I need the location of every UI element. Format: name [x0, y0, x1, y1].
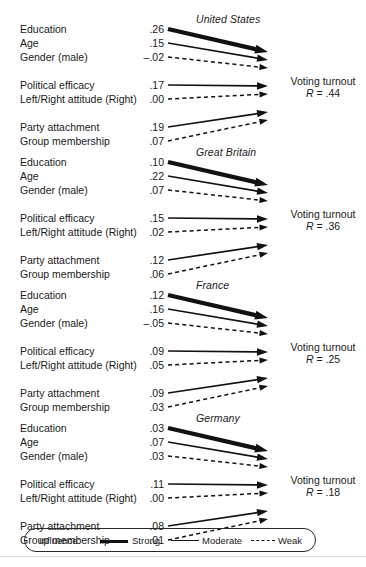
predictor-label: Gender (male): [20, 52, 88, 63]
predictor-label: Gender (male): [20, 451, 88, 462]
legend-swatch-weak: [251, 540, 275, 541]
legend: Influence: Strong Moderate Weak: [24, 528, 316, 552]
legend-label-moderate: Moderate: [202, 535, 242, 546]
influence-arrow: [168, 456, 268, 469]
outcome-r-value: R = .44: [280, 88, 366, 100]
r-number: .36: [325, 220, 340, 232]
country-title: United States: [196, 13, 260, 25]
influence-arrow: [168, 428, 268, 452]
outcome-node: Voting turnoutR = .44: [280, 76, 366, 99]
coefficient-value: .05: [118, 360, 164, 371]
outcome-r-value: R = .18: [280, 487, 366, 499]
r-equals: =: [314, 486, 326, 498]
influence-arrow: [168, 162, 268, 186]
r-equals: =: [314, 220, 326, 232]
predictor-label: Political efficacy: [20, 213, 95, 224]
coefficient-value: .26: [118, 24, 164, 35]
country-title: France: [196, 279, 229, 291]
coefficient-value: .16: [118, 304, 164, 315]
influence-arrow: [168, 190, 268, 203]
predictor-label: Gender (male): [20, 318, 88, 329]
influence-arrow: [168, 323, 268, 336]
coefficient-value: –.05: [118, 318, 164, 329]
legend-title: Influence:: [39, 535, 80, 546]
r-symbol: R: [306, 220, 314, 232]
legend-label-weak: Weak: [278, 535, 302, 546]
coefficient-value: .09: [118, 346, 164, 357]
influence-arrow: [168, 252, 268, 274]
r-symbol: R: [306, 87, 314, 99]
coefficient-value: .12: [118, 290, 164, 301]
r-equals: =: [314, 87, 326, 99]
coefficient-value: .12: [118, 255, 164, 266]
outcome-node: Voting turnoutR = .36: [280, 209, 366, 232]
predictor-label: Education: [20, 157, 67, 168]
influence-arrow: [168, 509, 268, 526]
predictor-label: Political efficacy: [20, 80, 95, 91]
r-symbol: R: [306, 353, 314, 365]
outcome-node: Voting turnoutR = .18: [280, 475, 366, 498]
coefficient-value: .02: [118, 227, 164, 238]
predictor-label: Political efficacy: [20, 479, 95, 490]
legend-swatch-moderate: [171, 540, 199, 541]
coefficient-value: –.02: [118, 52, 164, 63]
influence-arrow: [168, 376, 268, 393]
legend-swatch-strong: [100, 540, 128, 543]
predictor-label: Education: [20, 290, 67, 301]
influence-arrow: [168, 215, 268, 223]
coefficient-value: .19: [118, 122, 164, 133]
coefficient-value: .22: [118, 171, 164, 182]
influence-arrow: [168, 385, 268, 407]
r-equals: =: [314, 353, 326, 365]
country-panel: Great BritainEducation.10Age.22Gender (m…: [0, 141, 366, 274]
influence-arrow: [168, 481, 268, 489]
predictor-label: Party attachment: [20, 122, 99, 133]
coefficient-value: .10: [118, 157, 164, 168]
country-panel: FranceEducation.12Age.16Gender (male)–.0…: [0, 274, 366, 407]
r-symbol: R: [306, 486, 314, 498]
predictor-label: Age: [20, 171, 39, 182]
predictor-label: Party attachment: [20, 388, 99, 399]
coefficient-value: .03: [118, 423, 164, 434]
influence-arrow: [168, 29, 268, 53]
influence-arrow: [168, 119, 268, 141]
coefficient-value: .09: [118, 388, 164, 399]
predictor-label: Gender (male): [20, 185, 88, 196]
influence-arrow: [168, 295, 268, 319]
predictor-label: Age: [20, 38, 39, 49]
influence-arrow: [168, 348, 268, 356]
predictor-label: Age: [20, 437, 39, 448]
coefficient-value: .03: [118, 451, 164, 462]
country-title: Great Britain: [196, 146, 256, 158]
outcome-r-value: R = .25: [280, 354, 366, 366]
influence-arrow: [168, 57, 268, 70]
path-diagram: United StatesEducation.26Age.15Gender (m…: [0, 0, 366, 567]
influence-arrow: [168, 357, 268, 365]
coefficient-value: .07: [118, 437, 164, 448]
influence-arrow: [168, 91, 268, 99]
coefficient-value: .07: [118, 185, 164, 196]
coefficient-value: .15: [118, 38, 164, 49]
r-number: .44: [325, 87, 340, 99]
country-title: Germany: [196, 412, 240, 424]
predictor-label: Education: [20, 24, 67, 35]
country-panel: United StatesEducation.26Age.15Gender (m…: [0, 8, 366, 141]
predictor-label: Education: [20, 423, 67, 434]
predictor-label: Political efficacy: [20, 346, 95, 357]
country-panel: GermanyEducation.03Age.07Gender (male).0…: [0, 407, 366, 540]
footer-divider: [0, 556, 366, 557]
outcome-node: Voting turnoutR = .25: [280, 342, 366, 365]
coefficient-value: .17: [118, 80, 164, 91]
r-number: .18: [325, 486, 340, 498]
coefficient-value: .00: [118, 493, 164, 504]
coefficient-value: .11: [118, 479, 164, 490]
influence-arrow: [168, 82, 268, 90]
legend-label-strong: Strong: [132, 535, 160, 546]
coefficient-value: .00: [118, 94, 164, 105]
outcome-r-value: R = .36: [280, 221, 366, 233]
influence-arrow: [168, 243, 268, 260]
influence-arrow: [168, 490, 268, 498]
predictor-label: Party attachment: [20, 255, 99, 266]
influence-arrow: [168, 110, 268, 127]
coefficient-value: .15: [118, 213, 164, 224]
